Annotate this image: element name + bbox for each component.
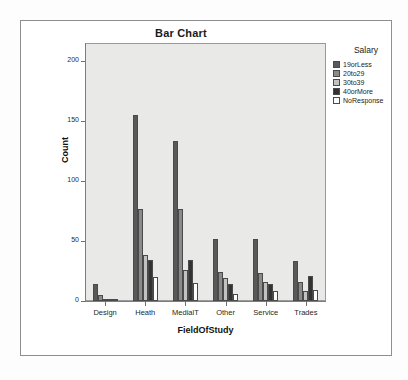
bar bbox=[313, 290, 318, 301]
y-tick-label: 200 bbox=[67, 56, 79, 63]
legend-swatch bbox=[333, 61, 340, 68]
y-tick: 50 bbox=[66, 241, 85, 242]
x-tick-mark bbox=[185, 301, 186, 306]
chart-page: Bar Chart Count 050100150200 DesignHeath… bbox=[0, 0, 408, 380]
plot-area bbox=[85, 43, 326, 301]
x-tick-label: Service bbox=[253, 308, 278, 317]
x-axis-title: FieldOfStudy bbox=[85, 325, 326, 335]
y-tick-mark bbox=[81, 301, 85, 302]
legend-label: NoResponse bbox=[343, 97, 383, 104]
bar bbox=[273, 291, 278, 301]
y-tick: 100 bbox=[66, 181, 85, 182]
legend-label: 20to29 bbox=[343, 70, 364, 77]
y-axis-line bbox=[85, 43, 86, 301]
y-tick: 0 bbox=[66, 301, 85, 302]
x-tick-label: Other bbox=[216, 308, 235, 317]
y-tick-label: 0 bbox=[75, 296, 79, 303]
y-axis-title: Count bbox=[60, 137, 70, 163]
legend-title: Salary bbox=[333, 45, 407, 55]
legend-items: 19orLess20to2930to3940orMoreNoResponse bbox=[333, 61, 407, 104]
x-tick-mark bbox=[145, 301, 146, 306]
bar bbox=[233, 294, 238, 301]
x-tick-mark bbox=[105, 301, 106, 306]
y-tick-mark bbox=[81, 121, 85, 122]
x-tick-mark bbox=[306, 301, 307, 306]
legend-label: 30to39 bbox=[343, 79, 364, 86]
legend-swatch bbox=[333, 70, 340, 77]
y-tick: 200 bbox=[66, 61, 85, 62]
legend-swatch bbox=[333, 79, 340, 86]
legend-swatch bbox=[333, 88, 340, 95]
legend-swatch bbox=[333, 97, 340, 104]
legend-item: 30to39 bbox=[333, 79, 407, 86]
x-tick-label: MedialT bbox=[172, 308, 199, 317]
x-tick-label: Heath bbox=[135, 308, 155, 317]
bar bbox=[113, 299, 118, 301]
x-tick-label: Design bbox=[93, 308, 116, 317]
y-tick-mark bbox=[81, 181, 85, 182]
legend-item: 19orLess bbox=[333, 61, 407, 68]
page-title: Bar Chart bbox=[21, 27, 341, 39]
y-tick: 150 bbox=[66, 121, 85, 122]
legend-label: 40orMore bbox=[343, 88, 373, 95]
y-tick-label: 50 bbox=[71, 236, 79, 243]
legend-label: 19orLess bbox=[343, 61, 372, 68]
y-tick-label: 100 bbox=[67, 176, 79, 183]
y-tick-mark bbox=[81, 61, 85, 62]
bar bbox=[193, 283, 198, 301]
legend-item: NoResponse bbox=[333, 97, 407, 104]
x-tick-label: Trades bbox=[294, 308, 317, 317]
x-tick-mark bbox=[266, 301, 267, 306]
y-tick-label: 150 bbox=[67, 116, 79, 123]
chart-frame: Bar Chart Count 050100150200 DesignHeath… bbox=[20, 20, 392, 356]
y-tick-mark bbox=[81, 241, 85, 242]
legend: Salary 19orLess20to2930to3940orMoreNoRes… bbox=[333, 45, 407, 106]
legend-item: 20to29 bbox=[333, 70, 407, 77]
plot-wrapper: Count 050100150200 DesignHeathMedialTOth… bbox=[66, 43, 326, 322]
x-axis-line bbox=[85, 301, 326, 302]
bar bbox=[153, 277, 158, 301]
legend-item: 40orMore bbox=[333, 88, 407, 95]
x-tick-mark bbox=[226, 301, 227, 306]
